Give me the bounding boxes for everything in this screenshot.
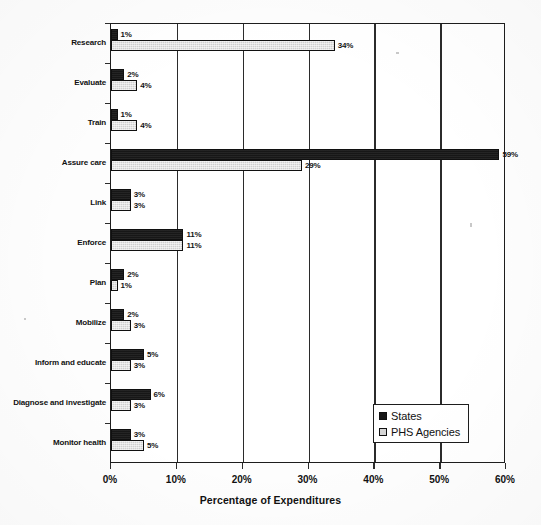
y-axis-category-label: Evaluate [2,78,106,88]
bar-value-label: 1% [121,280,132,291]
bar-states [111,309,124,320]
bar-value-label: 29% [305,160,320,171]
x-axis-tick-label: 10% [166,474,186,485]
y-axis-labels: ResearchEvaluateTrainAssure careLinkEnfo… [0,23,106,463]
x-axis-tick [308,463,309,469]
x-axis-tick-label: 0% [103,474,117,485]
x-axis-tick [176,463,177,469]
bar-group: 1%34% [111,24,504,64]
bar-states [111,29,118,40]
bar-value-label: 59% [502,149,517,160]
bar-value-label: 1% [121,29,132,40]
bar-phs [111,160,302,171]
bar-group: 2%4% [111,64,504,104]
bar-phs [111,280,118,291]
y-axis-category-label: Plan [2,278,106,288]
bar-value-label: 3% [134,400,145,411]
bar-states [111,349,144,360]
bar-phs [111,440,144,451]
bar-states [111,229,183,240]
x-axis-tick-label: 50% [429,474,449,485]
bar-value-label: 2% [127,69,138,80]
x-axis-tick [110,463,111,469]
bar-phs [111,240,183,251]
bar-phs [111,40,335,51]
bar-value-label: 2% [127,269,138,280]
legend-label: PHS Agencies [391,426,460,438]
legend-swatch-icon [379,428,387,436]
y-axis-category-label: Inform and educate [2,358,106,368]
bar-group: 2%1% [111,264,504,304]
bar-value-label: 5% [147,440,158,451]
bar-phs [111,400,131,411]
y-axis-category-label: Diagnose and investigate [2,398,106,408]
bar-value-label: 4% [140,120,151,131]
bar-group: 5%3% [111,344,504,384]
bar-phs [111,200,131,211]
bar-group: 2%3% [111,304,504,344]
bar-group: 3%3% [111,184,504,224]
bar-phs [111,120,137,131]
legend-label: States [391,410,422,422]
bar-value-label: 3% [134,429,145,440]
x-axis-tick [439,463,440,469]
chart-legend: StatesPHS Agencies [373,404,469,443]
bar-states [111,109,118,120]
bar-states [111,429,131,440]
x-axis-tick-label: 60% [495,474,515,485]
legend-item-phs: PHS Agencies [379,424,468,440]
x-axis-tick-label: 30% [297,474,317,485]
plot-area: 1%34%2%4%1%4%59%29%3%3%11%11%2%1%2%3%5%3… [110,23,505,463]
bar-value-label: 3% [134,189,145,200]
x-axis-tick [373,463,374,469]
bar-states [111,189,131,200]
chart-page: ResearchEvaluateTrainAssure careLinkEnfo… [0,0,541,525]
bar-value-label: 3% [134,320,145,331]
y-axis-category-label: Train [2,118,106,128]
x-axis-title: Percentage of Expenditures [0,494,541,506]
y-axis-category-label: Link [2,198,106,208]
bar-value-label: 11% [186,229,201,240]
x-axis-tick [505,463,506,469]
y-axis-category-label: Monitor health [2,438,106,448]
bar-value-label: 2% [127,309,138,320]
bar-states [111,149,499,160]
bar-value-label: 3% [134,200,145,211]
bar-value-label: 5% [147,349,158,360]
bar-group: 11%11% [111,224,504,264]
x-axis-tick-label: 20% [232,474,252,485]
bar-value-label: 4% [140,80,151,91]
x-axis-tick-label: 40% [363,474,383,485]
bar-value-label: 3% [134,360,145,371]
legend-swatch-icon [379,412,387,420]
bar-value-label: 34% [338,40,353,51]
bar-phs [111,320,131,331]
bar-states [111,269,124,280]
y-axis-category-label: Mobilize [2,318,106,328]
y-axis-category-label: Assure care [2,158,106,168]
legend-item-states: States [379,408,468,424]
y-axis-category-label: Enforce [2,238,106,248]
bar-value-label: 1% [121,109,132,120]
bar-group: 59%29% [111,144,504,184]
bar-value-label: 11% [186,240,201,251]
bar-states [111,69,124,80]
bar-value-label: 6% [154,389,165,400]
bar-group: 1%4% [111,104,504,144]
bar-phs [111,360,131,371]
bar-states [111,389,151,400]
y-axis-category-label: Research [2,38,106,48]
x-axis-tick [242,463,243,469]
bar-phs [111,80,137,91]
